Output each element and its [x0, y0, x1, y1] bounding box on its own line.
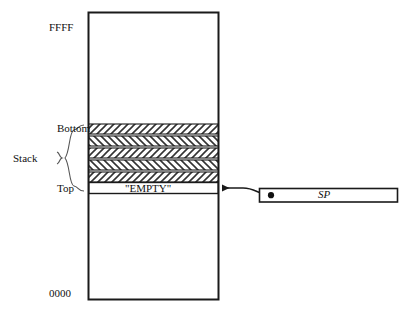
sp-pointer-dot — [268, 192, 274, 198]
stack-bottom-marker-label: Bottom — [57, 123, 90, 134]
diagram-vector-layer — [0, 0, 405, 319]
stack-band — [89, 136, 218, 146]
sp-register-label: SP — [318, 189, 330, 200]
stack-band — [89, 160, 218, 170]
stack-band — [89, 172, 218, 182]
stack-label-brace — [57, 152, 62, 164]
stack-band — [89, 124, 218, 134]
stack-filled-bands — [89, 124, 218, 182]
diagram-canvas: FFFF 0000 Bottom Top Stack "EMPTY" SP — [0, 0, 405, 319]
empty-cell-label: "EMPTY" — [125, 183, 171, 194]
stack-band — [89, 148, 218, 158]
stack-region-label: Stack — [13, 153, 37, 164]
address-label-top: FFFF — [49, 22, 73, 33]
address-label-bottom: 0000 — [49, 288, 71, 299]
stack-top-marker-label: Top — [57, 183, 74, 194]
